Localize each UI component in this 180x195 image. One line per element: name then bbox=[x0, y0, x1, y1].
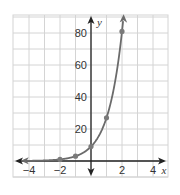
data-point bbox=[57, 157, 62, 162]
y-tick-label: 20 bbox=[75, 123, 87, 135]
data-point bbox=[88, 144, 93, 149]
data-point bbox=[73, 154, 78, 159]
y-tick-label: 80 bbox=[75, 27, 87, 39]
exponential-chart: −4−22420406080xy bbox=[0, 0, 180, 195]
x-tick-label: −2 bbox=[54, 164, 67, 176]
x-tick-label: −4 bbox=[23, 164, 36, 176]
y-axis-label: y bbox=[96, 16, 102, 28]
data-point bbox=[119, 29, 124, 34]
y-tick-label: 40 bbox=[75, 91, 87, 103]
x-axis-label: x bbox=[161, 164, 167, 176]
y-tick-label: 60 bbox=[75, 59, 87, 71]
x-tick-label: 2 bbox=[119, 164, 125, 176]
x-tick-label: 4 bbox=[150, 164, 156, 176]
data-point bbox=[104, 115, 109, 120]
